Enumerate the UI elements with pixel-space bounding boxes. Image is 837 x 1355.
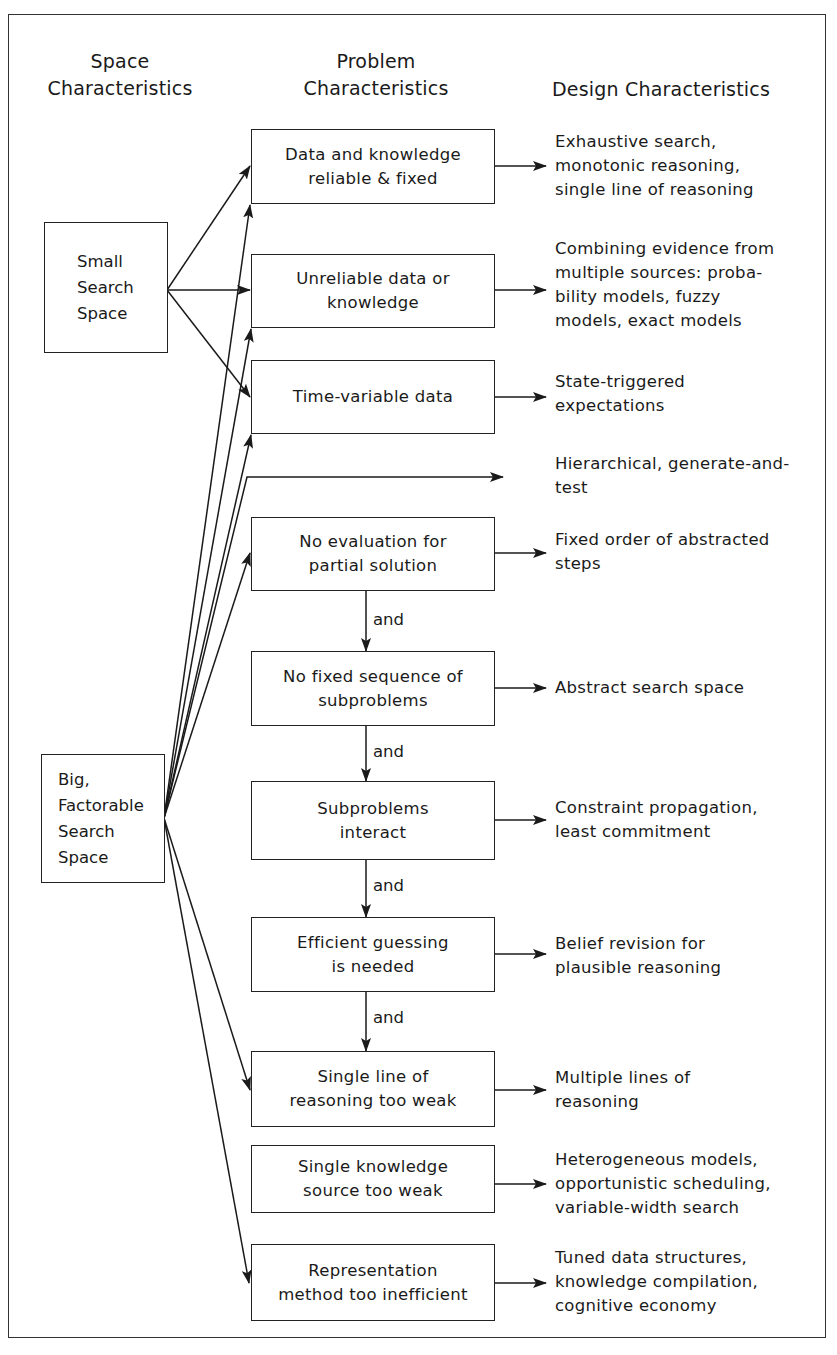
design-text: Heterogeneous models, opportunistic sche…: [555, 1148, 823, 1220]
problem-line: reasoning too weak: [289, 1089, 456, 1113]
design-line: Multiple lines of: [555, 1066, 823, 1090]
design-line: monotonic reasoning,: [555, 154, 823, 178]
problem-line: knowledge: [296, 291, 450, 315]
design-line: Combining evidence from: [555, 237, 823, 261]
design-text: Combining evidence from multiple sources…: [555, 237, 823, 333]
space-node-line: Space: [77, 301, 167, 327]
problem-line: Representation: [278, 1259, 468, 1283]
problem-line: Subproblems: [317, 797, 429, 821]
design-line: Tuned data structures,: [555, 1246, 823, 1270]
design-line: models, exact models: [555, 309, 823, 333]
design-line: State-triggered: [555, 370, 823, 394]
problem-line: Single line of: [289, 1065, 456, 1089]
problem-line: Single knowledge: [298, 1155, 448, 1179]
problem-box: Time-variable data: [251, 360, 495, 434]
design-line: bility models, fuzzy: [555, 285, 823, 309]
design-line: expectations: [555, 394, 823, 418]
design-text: Constraint propagation, least commitment: [555, 796, 823, 844]
space-node-big: Big, Factorable Search Space: [41, 754, 165, 883]
design-line: reasoning: [555, 1090, 823, 1114]
and-label: and: [373, 1008, 404, 1027]
space-node-line: Space: [58, 845, 164, 871]
design-text: Hierarchical, generate-and- test: [555, 452, 823, 500]
problem-line: method too inefficient: [278, 1283, 468, 1307]
problem-box: Representation method too inefficient: [251, 1244, 495, 1321]
design-line: Fixed order of abstracted: [555, 528, 823, 552]
problem-line: Data and knowledge: [285, 143, 461, 167]
problem-box: Efficient guessing is needed: [251, 917, 495, 992]
problem-box: Single line of reasoning too weak: [251, 1051, 495, 1127]
space-node-line: Search: [58, 819, 164, 845]
problem-box: No evaluation for partial solution: [251, 517, 495, 591]
problem-box: Data and knowledge reliable & fixed: [251, 129, 495, 204]
and-label: and: [373, 742, 404, 761]
design-line: Heterogeneous models,: [555, 1148, 823, 1172]
problem-line: No fixed sequence of: [283, 665, 463, 689]
design-line: opportunistic scheduling,: [555, 1172, 823, 1196]
design-line: Hierarchical, generate-and-: [555, 452, 823, 476]
problem-box: Subproblems interact: [251, 781, 495, 860]
problem-line: subproblems: [283, 689, 463, 713]
problem-box: No fixed sequence of subproblems: [251, 651, 495, 726]
design-line: Exhaustive search,: [555, 130, 823, 154]
problem-line: Unreliable data or: [296, 267, 450, 291]
space-node-line: Big,: [58, 767, 164, 793]
design-text: Abstract search space: [555, 676, 823, 700]
problem-box: Unreliable data or knowledge: [251, 254, 495, 328]
design-line: test: [555, 476, 823, 500]
problem-line: Time-variable data: [293, 385, 453, 409]
design-text: Multiple lines of reasoning: [555, 1066, 823, 1114]
problem-line: source too weak: [298, 1179, 448, 1203]
design-text: Exhaustive search, monotonic reasoning, …: [555, 130, 823, 202]
and-label: and: [373, 876, 404, 895]
and-label: and: [373, 610, 404, 629]
design-line: steps: [555, 552, 823, 576]
problem-line: partial solution: [299, 554, 447, 578]
design-line: least commitment: [555, 820, 823, 844]
design-line: Belief revision for: [555, 932, 823, 956]
problem-line: reliable & fixed: [285, 167, 461, 191]
design-text: Fixed order of abstracted steps: [555, 528, 823, 576]
problem-line: No evaluation for: [299, 530, 447, 554]
problem-line: is needed: [297, 955, 449, 979]
design-line: Constraint propagation,: [555, 796, 823, 820]
problem-box: Single knowledge source too weak: [251, 1145, 495, 1213]
design-line: Abstract search space: [555, 676, 823, 700]
design-line: single line of reasoning: [555, 178, 823, 202]
problem-line: interact: [317, 821, 429, 845]
design-text: State-triggered expectations: [555, 370, 823, 418]
design-line: multiple sources: proba-: [555, 261, 823, 285]
space-node-line: Search: [77, 275, 167, 301]
design-line: variable-width search: [555, 1196, 823, 1220]
design-line: cognitive economy: [555, 1294, 823, 1318]
design-text: Tuned data structures, knowledge compila…: [555, 1246, 823, 1318]
design-line: knowledge compilation,: [555, 1270, 823, 1294]
design-text: Belief revision for plausible reasoning: [555, 932, 823, 980]
space-node-small: Small Search Space: [44, 222, 168, 353]
problem-line: Efficient guessing: [297, 931, 449, 955]
space-node-line: Factorable: [58, 793, 164, 819]
design-line: plausible reasoning: [555, 956, 823, 980]
space-node-line: Small: [77, 249, 167, 275]
